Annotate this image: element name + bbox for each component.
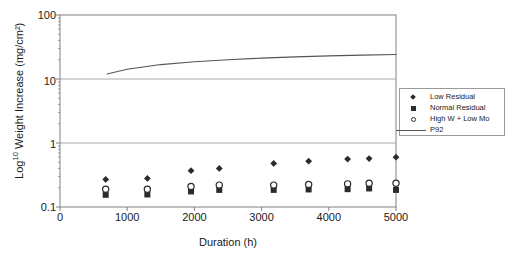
legend-item-high-w-low-mo: High W + Low Mo: [400, 113, 506, 124]
data-point-low-residual: [216, 165, 223, 172]
data-point-low-residual: [344, 156, 351, 163]
legend-label-normal-residual: Normal Residual: [430, 102, 485, 113]
legend-square-icon: [400, 102, 430, 113]
data-point-high-w-low-mo: [271, 182, 277, 188]
legend-diamond-icon: [400, 91, 430, 102]
chart-container: Log10 Weight Increase (mg/cm²) 100 10 1 …: [0, 0, 512, 261]
data-point-low-residual: [102, 176, 109, 183]
legend-line-icon: [400, 124, 430, 135]
x-tick-label-5000: 5000: [374, 212, 418, 223]
legend-open-circle-icon: [400, 113, 430, 124]
data-point-high-w-low-mo: [188, 183, 194, 189]
data-point-low-residual: [188, 167, 195, 174]
x-axis-title: Duration (h): [60, 236, 396, 248]
data-point-low-residual: [270, 160, 277, 167]
data-point-high-w-low-mo: [216, 182, 222, 188]
data-point-low-residual: [305, 158, 312, 165]
chart-legend: Low Residual Normal Residual High W + Lo…: [399, 88, 505, 136]
x-tick-label-1000: 1000: [105, 212, 149, 223]
data-point-low-residual: [393, 154, 400, 161]
data-point-high-w-low-mo: [393, 180, 399, 186]
series-line-p92: [107, 54, 396, 73]
legend-item-normal-residual: Normal Residual: [400, 102, 506, 113]
x-tick-label-0: 0: [38, 212, 82, 223]
legend-label-p92: P92: [430, 124, 443, 135]
x-tick-label-4000: 4000: [307, 212, 351, 223]
x-tick-label-3000: 3000: [240, 212, 284, 223]
data-point-normal-residual: [393, 187, 399, 193]
plot-frame: [60, 15, 396, 207]
data-point-low-residual: [144, 175, 151, 182]
data-point-high-w-low-mo: [345, 181, 351, 187]
data-point-high-w-low-mo: [306, 181, 312, 187]
legend-label-low-residual: Low Residual: [430, 91, 475, 102]
legend-item-low-residual: Low Residual: [400, 91, 506, 102]
legend-item-p92: P92: [400, 124, 506, 135]
legend-label-high-w-low-mo: High W + Low Mo: [430, 113, 489, 124]
data-point-low-residual: [366, 155, 373, 162]
data-point-high-w-low-mo: [366, 180, 372, 186]
data-point-high-w-low-mo: [144, 186, 150, 192]
data-point-high-w-low-mo: [103, 186, 109, 192]
x-tick-label-2000: 2000: [172, 212, 216, 223]
